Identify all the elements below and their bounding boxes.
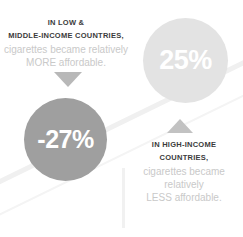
high-income-body: cigarettes became relatively LESS afford… [128, 165, 240, 204]
high-income-value-label: 25% [159, 47, 212, 74]
high-income-body-line2: relatively [128, 178, 240, 191]
low-middle-income-value-label: -27% [37, 127, 93, 152]
arrow-down-icon [54, 72, 82, 87]
low-middle-income-body-line1: cigarettes became relatively [2, 43, 130, 56]
low-middle-income-caption: IN LOW & MIDDLE-INCOME COUNTRIES, cigare… [2, 16, 130, 69]
low-middle-income-heading-line2: MIDDLE-INCOME COUNTRIES, [2, 29, 130, 42]
low-middle-income-body: cigarettes became relatively MORE afford… [2, 43, 130, 69]
infographic-canvas: IN LOW & MIDDLE-INCOME COUNTRIES, cigare… [0, 0, 243, 237]
low-middle-income-body-line2: MORE affordable. [2, 56, 130, 69]
high-income-body-line3: LESS affordable. [128, 191, 240, 204]
arrow-up-icon [167, 119, 193, 133]
low-middle-income-heading-line1: IN LOW & [2, 16, 130, 29]
low-middle-income-value-bubble: -27% [24, 98, 107, 181]
high-income-body-line1: cigarettes became [128, 165, 240, 178]
high-income-heading: IN HIGH-INCOME COUNTRIES, [128, 138, 240, 164]
vertical-divider-decoration [122, 168, 125, 228]
high-income-heading-line2: COUNTRIES, [128, 151, 240, 164]
low-middle-income-heading: IN LOW & MIDDLE-INCOME COUNTRIES, [2, 16, 130, 42]
high-income-value-bubble: 25% [143, 18, 228, 103]
high-income-heading-line1: IN HIGH-INCOME [128, 138, 240, 151]
high-income-caption: IN HIGH-INCOME COUNTRIES, cigarettes bec… [128, 138, 240, 204]
